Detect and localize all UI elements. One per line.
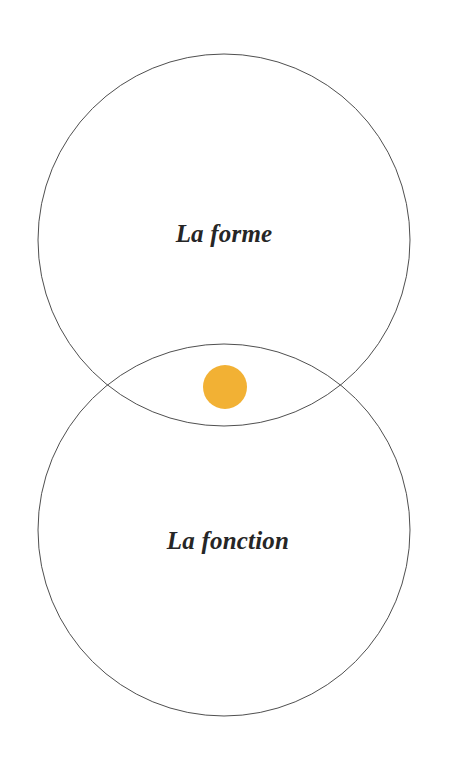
venn-diagram-stage: La forme La fonction <box>0 0 455 766</box>
venn-diagram-svg: La forme La fonction <box>0 0 455 766</box>
venn-label-fonction: La fonction <box>166 527 289 554</box>
venn-label-forme: La forme <box>175 220 273 247</box>
intersection-dot[interactable] <box>203 365 247 409</box>
